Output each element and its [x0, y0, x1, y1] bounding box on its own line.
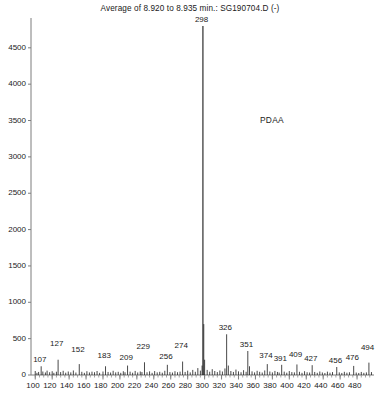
- y-tick-label: 500: [0, 334, 26, 343]
- x-tick-label: 140: [60, 381, 73, 390]
- peak-label: 229: [136, 342, 149, 351]
- x-tick-label: 280: [179, 381, 192, 390]
- x-tick-label: 400: [280, 381, 293, 390]
- x-tick-label: 240: [145, 381, 158, 390]
- x-tick-label: 460: [331, 381, 344, 390]
- y-tick-label: 4500: [0, 43, 26, 52]
- x-tick-label: 480: [348, 381, 361, 390]
- x-tick-label: 440: [314, 381, 327, 390]
- x-tick-label: 380: [263, 381, 276, 390]
- y-tick-label: 3500: [0, 116, 26, 125]
- peak-label: 374: [259, 351, 272, 360]
- x-tick-label: 320: [213, 381, 226, 390]
- x-tick-label: 160: [77, 381, 90, 390]
- x-tick-label: 300: [196, 381, 209, 390]
- mass-spectrum-plot: Average of 8.920 to 8.935 min.: SG190704…: [0, 0, 380, 402]
- peak-label: 326: [219, 323, 232, 332]
- peak-label: 298: [195, 15, 208, 24]
- y-tick-label: 1500: [0, 261, 26, 270]
- peak-label: 391: [274, 354, 287, 363]
- y-tick-label: 1000: [0, 297, 26, 306]
- series-annotation-pdaa: PDAA: [260, 115, 284, 125]
- peak-label: 152: [71, 345, 84, 354]
- x-tick-label: 260: [162, 381, 175, 390]
- x-tick-label: 200: [111, 381, 124, 390]
- y-tick-label: 2500: [0, 188, 26, 197]
- y-tick-label: 0: [0, 370, 26, 379]
- peak-label: 107: [33, 355, 46, 364]
- x-tick-label: 360: [246, 381, 259, 390]
- y-tick-label: 3000: [0, 152, 26, 161]
- peak-label: 351: [240, 340, 253, 349]
- y-tick-label: 4000: [0, 79, 26, 88]
- x-tick-label: 420: [297, 381, 310, 390]
- y-tick-label: 2000: [0, 225, 26, 234]
- peak-label: 274: [175, 341, 188, 350]
- peak-label: 409: [289, 350, 302, 359]
- peak-label: 127: [50, 339, 63, 348]
- x-tick-label: 180: [94, 381, 107, 390]
- x-tick-label: 100: [26, 381, 39, 390]
- peak-label: 476: [346, 353, 359, 362]
- peak-label: 456: [329, 356, 342, 365]
- peak-label: 209: [120, 353, 133, 362]
- peak-label: 256: [159, 352, 172, 361]
- peak-label: 427: [304, 354, 317, 363]
- peak-label: 183: [98, 351, 111, 360]
- x-tick-label: 340: [229, 381, 242, 390]
- peak-label: 494: [361, 343, 374, 352]
- x-tick-label: 120: [43, 381, 56, 390]
- x-tick-label: 220: [128, 381, 141, 390]
